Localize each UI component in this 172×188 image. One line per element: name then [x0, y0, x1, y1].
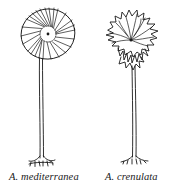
specimen-mediterranea: [16, 4, 79, 167]
specimen-crenulata: [106, 10, 158, 164]
acetabularia-illustration: [0, 0, 172, 188]
mediterranea-cap-center-dot: [47, 33, 50, 36]
mediterranea-stem: [39, 58, 40, 158]
mediterranea-rhizoids: [29, 156, 55, 167]
crenulata-cap-center-dot: [130, 39, 133, 42]
caption-crenulata: A. crenulata: [105, 171, 158, 182]
caption-mediterranea: A. mediterranea: [9, 171, 79, 182]
crenulata-rhizoids: [121, 156, 148, 164]
crenulata-stem: [132, 66, 133, 157]
